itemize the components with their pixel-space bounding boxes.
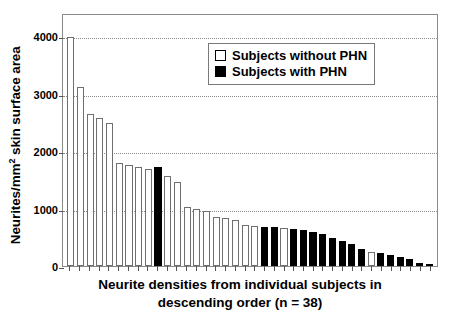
x-axis-tick-mark	[118, 266, 119, 271]
x-axis-tick-slot	[396, 266, 406, 272]
x-axis-tick-mark	[225, 266, 226, 271]
bar-slot	[153, 15, 163, 266]
x-axis-tick-slot	[143, 266, 153, 272]
x-axis-tick-slot	[182, 266, 192, 272]
bar-slot	[124, 15, 134, 266]
x-axis-tick-mark	[196, 266, 197, 271]
x-axis-tick-mark	[410, 266, 411, 271]
bar-slot	[163, 15, 173, 266]
bar-slot	[376, 15, 386, 266]
x-axis-tick-slot	[318, 266, 328, 272]
chart-legend: Subjects without PHN Subjects with PHN	[208, 43, 375, 85]
bar-slot	[114, 15, 124, 266]
x-axis-tick-mark	[167, 266, 168, 271]
bar-slot	[424, 15, 434, 266]
x-axis-tick-mark	[371, 266, 372, 271]
bar-slot	[85, 15, 95, 266]
bar-slot	[105, 15, 115, 266]
x-axis-tick-slot	[299, 266, 309, 272]
bar-slot	[395, 15, 405, 266]
x-axis-tick-slot	[240, 266, 250, 272]
x-axis-tick-mark	[274, 266, 275, 271]
bar	[174, 182, 181, 266]
x-axis-tick-mark	[352, 266, 353, 271]
bar	[309, 232, 316, 267]
bar	[368, 252, 375, 266]
x-axis-tick-mark	[284, 266, 285, 271]
x-axis-tick-slot	[153, 266, 163, 272]
x-axis-tick-mark	[420, 266, 421, 271]
bar	[290, 229, 297, 266]
x-axis-tick-mark	[147, 266, 148, 271]
x-axis-tick-slot	[221, 266, 231, 272]
x-axis-tick-mark	[381, 266, 382, 271]
bar-slot	[182, 15, 192, 266]
x-axis-caption-line2: descending order (n = 38)	[40, 294, 440, 312]
bar	[271, 227, 278, 266]
y-axis-tick-label: 2000	[24, 146, 58, 158]
x-axis-tick-mark	[108, 266, 109, 271]
x-axis-tick-slot	[201, 266, 211, 272]
legend-swatch-filled-icon	[215, 66, 226, 77]
x-axis-tick-slot	[250, 266, 260, 272]
bar-slot	[76, 15, 86, 266]
x-axis-tick-slot	[338, 266, 348, 272]
chart-figure: Neurites/mm2 skin surface area 010002000…	[0, 0, 451, 323]
x-axis-tick-slot	[279, 266, 289, 272]
x-axis-tick-mark	[206, 266, 207, 271]
legend-label-without-phn: Subjects without PHN	[232, 48, 367, 63]
x-axis-tick-slot	[357, 266, 367, 272]
x-axis-tick-mark	[89, 266, 90, 271]
x-axis-tick-slot	[65, 266, 75, 272]
bar	[339, 241, 346, 266]
bar	[280, 228, 287, 266]
x-axis-tick-mark	[313, 266, 314, 271]
bar	[222, 218, 229, 266]
legend-item-without-phn: Subjects without PHN	[215, 48, 367, 63]
y-axis-tick-label: 0	[24, 261, 58, 273]
x-axis-tick-slot	[347, 266, 357, 272]
x-axis-tick-mark	[69, 266, 70, 271]
x-axis-tick-mark	[264, 266, 265, 271]
bar	[397, 257, 404, 266]
y-axis-title-superscript: 2	[7, 158, 17, 163]
y-axis-tick-labels: 01000200030004000	[24, 0, 58, 290]
x-axis-tick-slot	[94, 266, 104, 272]
bar	[358, 249, 365, 266]
bar	[329, 238, 336, 266]
bar-slot	[386, 15, 396, 266]
x-axis-tick-mark	[128, 266, 129, 271]
x-axis-tick-mark	[332, 266, 333, 271]
bar	[377, 253, 384, 266]
bar	[193, 209, 200, 266]
x-axis-tick-mark	[157, 266, 158, 271]
bar	[213, 217, 220, 266]
bar-slot	[173, 15, 183, 266]
x-axis-tick-slot	[260, 266, 270, 272]
y-axis-tick-label: 3000	[24, 89, 58, 101]
x-axis-tick-marks	[62, 266, 438, 272]
x-axis-tick-mark	[342, 266, 343, 271]
x-axis-tick-slot	[415, 266, 425, 272]
x-axis-tick-mark	[215, 266, 216, 271]
x-axis-tick-mark	[79, 266, 80, 271]
x-axis-tick-mark	[361, 266, 362, 271]
x-axis-tick-mark	[293, 266, 294, 271]
x-axis-tick-mark	[430, 266, 431, 271]
bar	[203, 211, 210, 266]
y-axis-tick-label: 1000	[24, 204, 58, 216]
x-axis-tick-mark	[138, 266, 139, 271]
bar	[261, 227, 268, 266]
bar	[106, 123, 113, 266]
bar	[87, 114, 94, 266]
x-axis-tick-mark	[245, 266, 246, 271]
bar	[184, 207, 191, 266]
x-axis-tick-slot	[269, 266, 279, 272]
bar	[387, 255, 394, 267]
x-axis-tick-mark	[254, 266, 255, 271]
x-axis-tick-slot	[123, 266, 133, 272]
y-axis-title-tail: skin surface area	[8, 46, 23, 158]
x-axis-caption-line1: Neurite densities from individual subjec…	[40, 276, 440, 294]
x-axis-tick-slot	[75, 266, 85, 272]
x-axis-tick-slot	[192, 266, 202, 272]
